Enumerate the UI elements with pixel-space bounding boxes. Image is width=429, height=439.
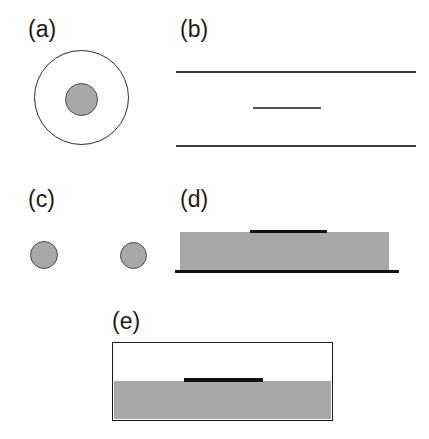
line-bottom-shape (176, 145, 416, 147)
line-top-shape (176, 71, 416, 73)
baseline-shape (175, 270, 399, 273)
inner-disk-shape (65, 83, 98, 116)
line-middle-short-shape (253, 107, 321, 109)
panel-c-label: (c) (28, 188, 55, 211)
disk-right-shape (120, 242, 147, 269)
panel-a-label: (a) (28, 18, 56, 41)
panel-d-label: (d) (180, 188, 208, 211)
bar-interface-shape (184, 378, 263, 382)
slab-shape (180, 232, 389, 271)
box-lower-fill-shape (114, 381, 331, 419)
panel-b-label: (b) (180, 18, 208, 41)
figure-canvas: (a) (b) (c) (d) (e) (0, 0, 429, 439)
panel-e-label: (e) (112, 310, 140, 333)
bar-top-shape (250, 230, 327, 233)
disk-left-shape (30, 241, 58, 269)
